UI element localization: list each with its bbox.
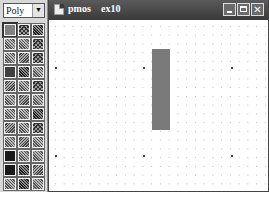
layer-palette: Poly ▼ xyxy=(0,0,48,192)
layer-select-value: Poly xyxy=(6,5,24,16)
layer-swatch[interactable] xyxy=(32,136,44,148)
layer-swatch[interactable] xyxy=(18,136,30,148)
layout-window: pmos ex10 ✕ xyxy=(48,0,269,192)
grid-major-dot xyxy=(231,67,233,69)
layer-swatch[interactable] xyxy=(18,108,30,120)
grid-major-dot xyxy=(55,67,57,69)
chevron-down-icon[interactable]: ▼ xyxy=(32,4,44,17)
layer-swatch[interactable] xyxy=(18,150,30,162)
layer-swatch[interactable] xyxy=(4,136,16,148)
layer-swatch[interactable] xyxy=(18,178,30,190)
grid-major-dot xyxy=(55,155,57,157)
minimize-button[interactable] xyxy=(223,3,236,16)
layer-swatch[interactable] xyxy=(18,80,30,92)
minimize-icon xyxy=(227,11,232,13)
layer-swatch[interactable] xyxy=(18,164,30,176)
maximize-button[interactable] xyxy=(237,3,250,16)
layer-swatch[interactable] xyxy=(32,80,44,92)
layer-swatch-grid xyxy=(4,24,46,190)
layer-swatch[interactable] xyxy=(4,94,16,106)
layer-swatch[interactable] xyxy=(4,52,16,64)
document-icon xyxy=(54,4,64,15)
layer-swatch[interactable] xyxy=(32,122,44,134)
poly-rectangle[interactable] xyxy=(152,49,170,130)
cell-name: pmos xyxy=(68,3,91,14)
layer-swatch[interactable] xyxy=(32,24,44,36)
layer-swatch[interactable] xyxy=(4,178,16,190)
layer-swatch[interactable] xyxy=(32,94,44,106)
layer-swatch[interactable] xyxy=(32,52,44,64)
layer-swatch[interactable] xyxy=(18,94,30,106)
layer-swatch[interactable] xyxy=(18,122,30,134)
layer-swatch[interactable] xyxy=(32,66,44,78)
layer-swatch[interactable] xyxy=(4,122,16,134)
grid-major-dot xyxy=(143,67,145,69)
layout-canvas[interactable] xyxy=(49,20,268,191)
layer-swatch[interactable] xyxy=(4,24,16,36)
layer-swatch[interactable] xyxy=(18,24,30,36)
view-name: ex10 xyxy=(101,3,120,14)
layer-swatch[interactable] xyxy=(18,52,30,64)
layer-swatch[interactable] xyxy=(4,38,16,50)
layer-swatch[interactable] xyxy=(4,164,16,176)
layer-select[interactable]: Poly ▼ xyxy=(3,3,45,18)
layer-swatch[interactable] xyxy=(32,38,44,50)
layer-swatch[interactable] xyxy=(18,66,30,78)
layer-swatch[interactable] xyxy=(4,150,16,162)
layer-swatch[interactable] xyxy=(32,150,44,162)
layer-swatch[interactable] xyxy=(32,178,44,190)
layer-swatch[interactable] xyxy=(32,164,44,176)
close-icon: ✕ xyxy=(253,4,261,15)
layer-swatch[interactable] xyxy=(4,108,16,120)
layer-swatch[interactable] xyxy=(4,80,16,92)
close-button[interactable]: ✕ xyxy=(251,3,264,16)
grid-major-dot xyxy=(231,155,233,157)
grid-major-dot xyxy=(143,155,145,157)
title-bar[interactable]: pmos ex10 ✕ xyxy=(49,0,268,20)
layer-swatch[interactable] xyxy=(32,108,44,120)
layer-swatch[interactable] xyxy=(4,66,16,78)
layer-swatch[interactable] xyxy=(18,38,30,50)
maximize-icon xyxy=(240,6,247,12)
